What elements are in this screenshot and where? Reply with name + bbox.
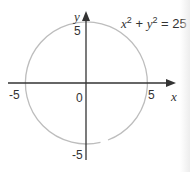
coordinate-plane: y x 5 -5 0 5 -5 x2 + y2 = 25 bbox=[0, 0, 190, 172]
x-tick-neg5: -5 bbox=[9, 88, 20, 102]
y-tick-neg5: -5 bbox=[72, 148, 83, 162]
circle-graph-figure: y x 5 -5 0 5 -5 x2 + y2 = 25 bbox=[0, 0, 190, 172]
page-edge-shadow bbox=[180, 0, 190, 172]
x-axis-arrow-icon bbox=[166, 79, 176, 87]
y-axis-arrow-icon bbox=[82, 11, 90, 21]
equation-label: x2 + y2 = 25 bbox=[120, 15, 187, 31]
y-tick-5: 5 bbox=[74, 24, 81, 38]
origin-label: 0 bbox=[76, 91, 83, 105]
x-tick-5: 5 bbox=[148, 88, 155, 102]
y-axis-label: y bbox=[72, 9, 80, 24]
x-axis-label: x bbox=[170, 89, 177, 104]
